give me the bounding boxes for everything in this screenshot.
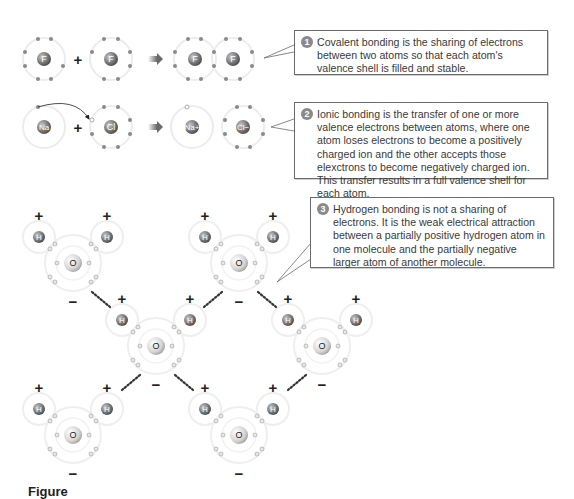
water-molecule: H+H+O− [272, 290, 372, 393]
atom-label: F [230, 54, 236, 64]
fluorine-atom: F [23, 37, 65, 81]
partial-positive-sign: + [35, 379, 44, 396]
reaction-arrow-icon [148, 53, 163, 65]
hydrogen-label: H [285, 316, 291, 325]
oxygen-label: O [152, 341, 159, 351]
partial-negative-sign: − [235, 293, 244, 310]
fluorine-atom: F [90, 37, 132, 81]
atom-label: Na [39, 123, 50, 132]
hydrogen-bond-line [92, 292, 110, 307]
callout-covalent: 1 Covalent bonding is the sharing of ele… [294, 30, 548, 75]
oxygen-label: O [69, 258, 76, 268]
callout-hydrogen: 3 Hydrogen bonding is not a sharing of e… [310, 197, 554, 268]
atom-label: F [108, 54, 114, 64]
hydrogen-bond-line [258, 292, 276, 307]
partial-positive-sign: + [118, 290, 127, 307]
chloride-ion: Cl− [222, 105, 265, 149]
sodium-ion: Na+ [171, 105, 213, 148]
chlorine-atom: Cl [90, 105, 132, 149]
partial-positive-sign: + [35, 207, 44, 224]
hydrogen-label: H [104, 405, 110, 414]
partial-positive-sign: + [201, 207, 210, 224]
hydrogen-label: H [270, 233, 276, 242]
oxygen-label: O [235, 258, 242, 268]
atom-label: Na+ [185, 123, 200, 132]
water-molecule: H+H+O− [23, 207, 123, 310]
reaction-arrow-icon [148, 121, 163, 133]
partial-positive-sign: + [201, 379, 210, 396]
oxygen-label: O [69, 430, 76, 440]
water-molecule: H+H+O− [23, 379, 123, 482]
partial-positive-sign: + [103, 207, 112, 224]
partial-negative-sign: − [69, 293, 78, 310]
water-molecule: H+H+O− [106, 290, 206, 393]
step-number-badge: 3 [317, 203, 329, 215]
atom-label: Cl [107, 122, 116, 132]
hydrogen-label: H [119, 316, 125, 325]
hydrogen-label: H [353, 316, 359, 325]
partial-positive-sign: + [284, 290, 293, 307]
hydrogen-bond-line [204, 292, 222, 307]
partial-positive-sign: + [269, 207, 278, 224]
callout-text: Ionic bonding is the transfer of one or … [317, 108, 530, 199]
covalent-row: F + F F F [23, 37, 254, 81]
callout-text: Hydrogen bonding is not a sharing of ele… [333, 203, 545, 268]
atom-label: F [192, 54, 198, 64]
partial-positive-sign: + [269, 379, 278, 396]
partial-positive-sign: + [352, 290, 361, 307]
partial-positive-sign: + [103, 379, 112, 396]
oxygen-label: O [235, 430, 242, 440]
partial-negative-sign: − [69, 465, 78, 482]
hydrogen-label: H [104, 233, 110, 242]
callout-ionic: 2 Ionic bonding is the transfer of one o… [294, 102, 548, 179]
ionic-row: Na + Cl Na+ Cl− [23, 103, 265, 149]
hydrogen-label: H [36, 405, 42, 414]
hydrogen-bond-line [288, 375, 306, 390]
hydrogen-label: H [36, 233, 42, 242]
partial-negative-sign: − [235, 465, 244, 482]
water-molecule: H+H+O− [189, 207, 289, 310]
hydrogen-bond-line [122, 375, 140, 390]
hydrogen-label: H [187, 316, 193, 325]
hydrogen-label: H [202, 405, 208, 414]
partial-negative-sign: − [152, 376, 161, 393]
partial-positive-sign: + [186, 290, 195, 307]
fluorine-molecule: F F [173, 37, 254, 81]
oxygen-label: O [318, 341, 325, 351]
callout-text: Covalent bonding is the sharing of elect… [317, 36, 523, 74]
figure-caption: Figure [28, 484, 68, 499]
atom-label: Cl− [237, 123, 250, 132]
hydrogen-bond-line [175, 375, 193, 390]
hydrogen-label: H [202, 233, 208, 242]
step-number-badge: 2 [301, 108, 313, 120]
partial-negative-sign: − [318, 376, 327, 393]
hydrogen-label: H [270, 405, 276, 414]
water-molecule: H+H+O− [189, 379, 289, 482]
atom-label: F [41, 54, 47, 64]
plus-sign: + [74, 51, 83, 68]
plus-sign: + [74, 119, 83, 136]
step-number-badge: 1 [301, 36, 313, 48]
